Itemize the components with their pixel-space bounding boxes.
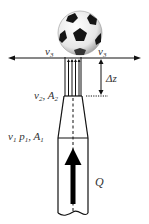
soccer-ball-icon	[58, 11, 102, 55]
horizontal-flow-arrow	[8, 56, 141, 61]
label-q: Q	[95, 176, 104, 188]
label-v1-p1-a1: v1 p1, A1	[8, 131, 44, 144]
label-v2-a2: v2, A2	[34, 90, 58, 103]
delta-z-dimension-arrow	[86, 59, 108, 96]
diagram-canvas	[0, 0, 149, 224]
label-v3-right: v3	[98, 46, 106, 59]
jet-streamlines	[65, 57, 81, 96]
flow-arrow-icon	[65, 148, 82, 204]
label-delta-z: Δz	[106, 73, 117, 84]
label-v3-left: v3	[45, 46, 53, 59]
